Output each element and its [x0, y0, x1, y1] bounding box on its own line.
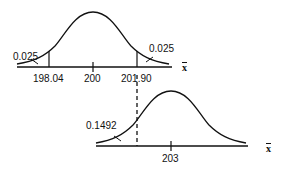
top-right-tail-area: 0.025 [149, 44, 174, 54]
bottom-axis-label: x [266, 143, 271, 153]
top-axis-label: x [182, 62, 187, 72]
bottom-tail-area: 0.1492 [86, 121, 117, 131]
tick-label-198-04: 198.04 [33, 74, 64, 84]
tick-label-203: 203 [162, 154, 179, 164]
tick-label-201-90: 201.90 [121, 74, 152, 84]
distribution-diagram [0, 0, 281, 178]
tick-label-200: 200 [84, 74, 101, 84]
bottom-normal-curve [96, 91, 246, 143]
top-normal-curve [17, 12, 169, 64]
top-left-tail-area: 0.025 [13, 52, 38, 62]
